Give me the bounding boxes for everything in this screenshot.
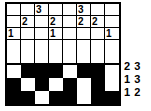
column-clue-cell[interactable]: 1	[105, 28, 119, 40]
column-clue-cell[interactable]: 2	[91, 16, 105, 28]
column-clue-cell[interactable]: 3	[35, 4, 49, 16]
solution-cell[interactable]	[105, 91, 119, 104]
solution-cell[interactable]	[21, 91, 35, 104]
solution-cell[interactable]	[21, 65, 35, 78]
solution-cell[interactable]	[49, 91, 63, 104]
row-clue: 1 2	[124, 86, 151, 99]
grid-blank-cell[interactable]	[77, 40, 91, 65]
solution-cell[interactable]	[7, 78, 21, 91]
nonogram-grid-container: 3 3 2 2 2 2 1 1 1	[5, 2, 121, 106]
row-clue: 1 3	[124, 73, 151, 86]
grid-blank-cell[interactable]	[49, 40, 63, 65]
grid-blank-cell[interactable]	[91, 40, 105, 65]
solution-cell[interactable]	[91, 78, 105, 91]
column-clue-cell[interactable]: 1	[7, 28, 21, 40]
solution-cell[interactable]	[49, 65, 63, 78]
solution-cell[interactable]	[35, 78, 49, 91]
row-clue-number: 1	[124, 86, 130, 99]
row-clue-number: 3	[134, 73, 140, 86]
solution-cell[interactable]	[35, 91, 49, 104]
grid-blank-cell[interactable]	[21, 40, 35, 65]
column-clue-cell[interactable]	[63, 4, 77, 16]
row-clue-number: 1	[124, 73, 130, 86]
grid-blank-cell[interactable]	[35, 40, 49, 65]
row-clue: 2 3	[124, 60, 151, 73]
nonogram-puzzle: 3 3 2 2 2 2 1 1 1	[0, 0, 151, 111]
column-clue-cell[interactable]	[105, 16, 119, 28]
column-clue-cell[interactable]: 3	[77, 4, 91, 16]
solution-cell[interactable]	[63, 65, 77, 78]
column-clue-cell[interactable]: 1	[49, 28, 63, 40]
solution-cell[interactable]	[63, 78, 77, 91]
grid-blank-cell[interactable]	[105, 40, 119, 65]
column-clue-cell[interactable]	[7, 4, 21, 16]
column-clue-cell[interactable]: 2	[21, 16, 35, 28]
row-clue-number: 2	[134, 86, 140, 99]
grid-blank-cell[interactable]	[63, 40, 77, 65]
column-clue-cell[interactable]	[77, 28, 91, 40]
nonogram-grid[interactable]: 3 3 2 2 2 2 1 1 1	[7, 4, 119, 104]
solution-cell[interactable]	[7, 65, 21, 78]
solution-cell[interactable]	[105, 78, 119, 91]
row-clue-number: 3	[134, 60, 140, 73]
solution-cell[interactable]	[49, 78, 63, 91]
solution-cell[interactable]	[91, 91, 105, 104]
solution-cell[interactable]	[77, 78, 91, 91]
solution-cell[interactable]	[7, 91, 21, 104]
solution-cell[interactable]	[105, 65, 119, 78]
row-clues-panel: 2 3 1 3 1 2	[124, 60, 151, 99]
solution-cell[interactable]	[77, 65, 91, 78]
solution-cell[interactable]	[77, 91, 91, 104]
solution-cell[interactable]	[63, 91, 77, 104]
column-clue-cell[interactable]	[91, 28, 105, 40]
column-clue-cell[interactable]	[21, 4, 35, 16]
column-clue-cell[interactable]	[35, 28, 49, 40]
row-clue-number: 2	[124, 60, 130, 73]
column-clue-cell[interactable]	[63, 28, 77, 40]
column-clue-cell[interactable]: 2	[77, 16, 91, 28]
column-clue-cell[interactable]	[49, 4, 63, 16]
column-clue-cell[interactable]	[63, 16, 77, 28]
solution-cell[interactable]	[21, 78, 35, 91]
column-clue-cell[interactable]: 2	[49, 16, 63, 28]
column-clue-cell[interactable]	[7, 16, 21, 28]
solution-cell[interactable]	[91, 65, 105, 78]
column-clue-cell[interactable]	[21, 28, 35, 40]
solution-cell[interactable]	[35, 65, 49, 78]
grid-blank-cell[interactable]	[7, 40, 21, 65]
column-clue-cell[interactable]	[35, 16, 49, 28]
column-clue-cell[interactable]	[91, 4, 105, 16]
column-clue-cell[interactable]	[105, 4, 119, 16]
